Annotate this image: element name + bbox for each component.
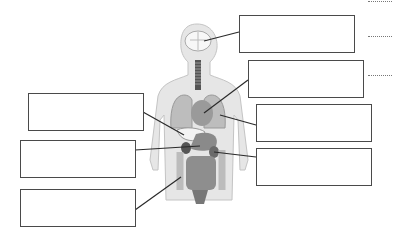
answer-line-1[interactable] [368, 1, 392, 2]
answer-line-3[interactable] [368, 75, 392, 76]
answer-line-2[interactable] [368, 36, 392, 37]
heart [191, 100, 213, 126]
label-box-right-2[interactable] [248, 60, 364, 98]
label-box-left-2[interactable] [20, 140, 136, 178]
label-box-right-3[interactable] [256, 104, 372, 142]
label-box-right-4[interactable] [256, 148, 372, 186]
label-box-left-3[interactable] [20, 189, 136, 227]
small-intestine [186, 156, 216, 190]
label-box-left-1[interactable] [28, 93, 144, 131]
label-box-right-1[interactable] [239, 15, 355, 53]
